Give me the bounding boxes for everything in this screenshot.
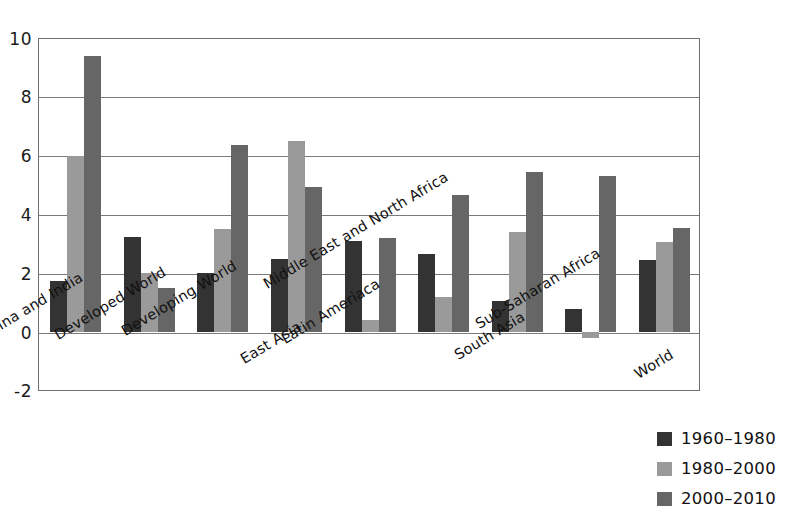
bar — [452, 195, 469, 332]
bar — [435, 297, 452, 332]
ytick-label-10: 10 — [2, 31, 32, 48]
bar — [288, 141, 305, 332]
bar — [67, 156, 84, 333]
ytick-label--2: -2 — [2, 383, 32, 400]
legend-label: 1960–1980 — [681, 431, 776, 448]
legend-label: 2000–2010 — [681, 491, 776, 508]
legend: 1960–1980 1980–2000 2000–2010 — [657, 424, 776, 514]
bar — [639, 260, 656, 332]
ytick-label-6: 6 — [2, 148, 32, 165]
ytick-label-2: 2 — [2, 266, 32, 283]
bar — [418, 254, 435, 332]
legend-label: 1980–2000 — [681, 461, 776, 478]
bar — [582, 332, 599, 338]
legend-swatch-icon — [657, 492, 672, 506]
bar — [565, 309, 582, 333]
legend-item-2000-2010: 2000–2010 — [657, 484, 776, 514]
bar — [84, 56, 101, 333]
bar — [231, 145, 248, 332]
bar — [526, 172, 543, 332]
legend-swatch-icon — [657, 462, 672, 476]
bar — [656, 242, 673, 332]
ytick-label-4: 4 — [2, 207, 32, 224]
bar-chart: 10 8 6 4 2 0 -2 China and IndiaDeveloped… — [0, 0, 797, 528]
legend-swatch-icon — [657, 432, 672, 446]
bar — [673, 228, 690, 332]
legend-item-1960-1980: 1960–1980 — [657, 424, 776, 454]
bar — [362, 320, 379, 332]
legend-item-1980-2000: 1980–2000 — [657, 454, 776, 484]
ytick-label-8: 8 — [2, 89, 32, 106]
bar — [379, 238, 396, 332]
bar — [599, 176, 616, 332]
